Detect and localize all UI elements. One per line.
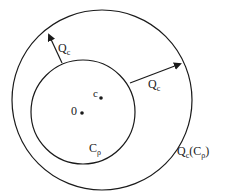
arrow-upper-left-label: Qc (58, 41, 71, 57)
label-main: Q (148, 77, 157, 91)
inner-circle-label: Cρ (89, 141, 101, 157)
label-main: Q (177, 144, 186, 158)
c-label: c (93, 87, 98, 99)
origin-point (80, 111, 84, 115)
c-point (99, 96, 103, 100)
outer-circle-label: Qc(Cρ) (177, 144, 209, 160)
label-sub: c (157, 84, 161, 93)
label-paren-main: C (193, 144, 201, 158)
label-main: Q (58, 41, 67, 55)
arrow-right-label: Qc (148, 77, 161, 93)
origin-label: 0 (71, 104, 77, 118)
paren-close: ) (205, 144, 209, 158)
label-sub: c (67, 48, 71, 57)
diagram: 0 c Qc Qc Cρ Qc(Cρ) (0, 0, 229, 195)
label-sub: ρ (97, 148, 101, 157)
label-main: C (89, 141, 97, 155)
outer-circle (12, 10, 192, 190)
